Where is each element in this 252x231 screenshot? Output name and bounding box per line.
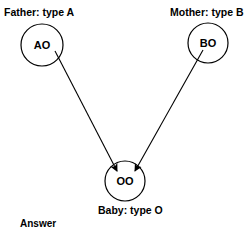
baby-genotype: OO bbox=[116, 175, 134, 187]
father-genotype: AO bbox=[34, 39, 51, 51]
mother-genotype: BO bbox=[200, 37, 217, 49]
father-node: AO bbox=[21, 24, 63, 66]
inheritance-diagram: AO BO OO bbox=[0, 0, 252, 231]
baby-node: OO bbox=[105, 161, 145, 201]
answer-label: Answer bbox=[20, 218, 56, 229]
mother-to-baby-arrow bbox=[135, 50, 203, 171]
father-to-baby-arrow bbox=[55, 51, 117, 171]
mother-node: BO bbox=[188, 23, 228, 63]
baby-label: Baby: type O bbox=[98, 204, 163, 216]
